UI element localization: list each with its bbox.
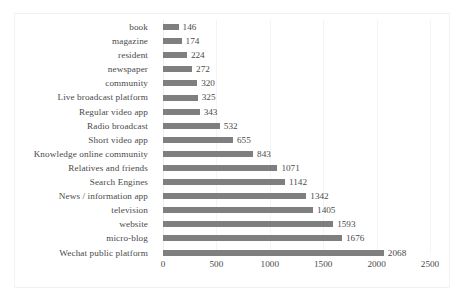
bar-row: Knowledge online community843 bbox=[15, 147, 449, 161]
bar-value-label: 320 bbox=[201, 76, 215, 90]
bar-row: television1405 bbox=[15, 203, 449, 217]
bar-track: 1342 bbox=[163, 189, 430, 203]
x-axis-tick-label: 0 bbox=[161, 257, 166, 271]
bar[interactable] bbox=[163, 250, 384, 256]
bar-row: community320 bbox=[15, 76, 449, 90]
bar[interactable] bbox=[163, 95, 198, 101]
bar-row: magazine174 bbox=[15, 34, 449, 48]
category-label: magazine bbox=[15, 34, 148, 48]
bar-value-label: 843 bbox=[257, 147, 271, 161]
category-label: community bbox=[15, 76, 148, 90]
category-label: Relatives and friends bbox=[15, 161, 148, 175]
bar-value-label: 174 bbox=[186, 34, 200, 48]
bar[interactable] bbox=[163, 207, 313, 213]
bar-track: 325 bbox=[163, 90, 430, 104]
bar-value-label: 325 bbox=[202, 90, 216, 104]
bar[interactable] bbox=[163, 109, 200, 115]
category-label: television bbox=[15, 203, 148, 217]
bar[interactable] bbox=[163, 235, 342, 241]
bar-row: News / information app1342 bbox=[15, 189, 449, 203]
category-label: resident bbox=[15, 48, 148, 62]
bar[interactable] bbox=[163, 38, 182, 44]
category-label: Radio broadcast bbox=[15, 119, 148, 133]
bar-value-label: 655 bbox=[237, 133, 251, 147]
bar-value-label: 1593 bbox=[337, 217, 355, 231]
category-label: book bbox=[15, 20, 148, 34]
bar-value-label: 1071 bbox=[281, 161, 299, 175]
x-axis-tick-label: 500 bbox=[210, 257, 224, 271]
category-label: Wechat public platform bbox=[15, 246, 148, 260]
bar-track: 320 bbox=[163, 76, 430, 90]
bar-row: resident224 bbox=[15, 48, 449, 62]
bar[interactable] bbox=[163, 137, 233, 143]
bar-row: book146 bbox=[15, 20, 449, 34]
bar-track: 532 bbox=[163, 119, 430, 133]
bar[interactable] bbox=[163, 179, 285, 185]
x-axis-tick-label: 2500 bbox=[421, 257, 439, 271]
x-axis-tick-label: 1000 bbox=[261, 257, 279, 271]
bar[interactable] bbox=[163, 221, 333, 227]
bar[interactable] bbox=[163, 52, 187, 58]
bar-track: 1142 bbox=[163, 175, 430, 189]
bar-row: Search Engines1142 bbox=[15, 175, 449, 189]
bar-track: 1071 bbox=[163, 161, 430, 175]
bar-value-label: 1405 bbox=[317, 203, 335, 217]
bar-track: 1676 bbox=[163, 231, 430, 245]
bar-value-label: 1342 bbox=[310, 189, 328, 203]
bar-value-label: 532 bbox=[224, 119, 238, 133]
bar-row: website1593 bbox=[15, 217, 449, 231]
bar-rows: book146magazine174resident224newspaper27… bbox=[15, 20, 449, 253]
bar-track: 146 bbox=[163, 20, 430, 34]
category-label: Live broadcast platform bbox=[15, 90, 148, 104]
bar[interactable] bbox=[163, 165, 277, 171]
bar-row: Live broadcast platform325 bbox=[15, 90, 449, 104]
bar-row: Short video app655 bbox=[15, 133, 449, 147]
bar[interactable] bbox=[163, 66, 192, 72]
x-axis-tick-label: 1500 bbox=[314, 257, 332, 271]
bar-row: micro-blog1676 bbox=[15, 231, 449, 245]
bar-track: 843 bbox=[163, 147, 430, 161]
bar-track: 1405 bbox=[163, 203, 430, 217]
plot-area: book146magazine174resident224newspaper27… bbox=[15, 14, 449, 287]
bar[interactable] bbox=[163, 123, 220, 129]
bar-track: 1593 bbox=[163, 217, 430, 231]
category-label: Regular video app bbox=[15, 105, 148, 119]
bar-row: Regular video app343 bbox=[15, 105, 449, 119]
x-axis: 05001000150020002500 bbox=[163, 257, 430, 271]
category-label: News / information app bbox=[15, 189, 148, 203]
bar[interactable] bbox=[163, 193, 306, 199]
bar-track: 655 bbox=[163, 133, 430, 147]
bar-track: 224 bbox=[163, 48, 430, 62]
category-label: website bbox=[15, 217, 148, 231]
bar[interactable] bbox=[163, 80, 197, 86]
category-label: Short video app bbox=[15, 133, 148, 147]
bar-chart-figure: book146magazine174resident224newspaper27… bbox=[14, 13, 450, 288]
category-label: Knowledge online community bbox=[15, 147, 148, 161]
bar-value-label: 146 bbox=[183, 20, 197, 34]
bar-track: 343 bbox=[163, 105, 430, 119]
bar-row: Radio broadcast532 bbox=[15, 119, 449, 133]
bar-value-label: 272 bbox=[196, 62, 210, 76]
bar-track: 272 bbox=[163, 62, 430, 76]
x-axis-tick-label: 2000 bbox=[367, 257, 385, 271]
category-label: newspaper bbox=[15, 62, 148, 76]
bar-value-label: 224 bbox=[191, 48, 205, 62]
bar[interactable] bbox=[163, 151, 253, 157]
bar-value-label: 1142 bbox=[289, 175, 307, 189]
bar[interactable] bbox=[163, 24, 179, 30]
bar-track: 174 bbox=[163, 34, 430, 48]
bar-row: newspaper272 bbox=[15, 62, 449, 76]
bar-row: Relatives and friends1071 bbox=[15, 161, 449, 175]
bar-value-label: 343 bbox=[204, 105, 218, 119]
bar-value-label: 1676 bbox=[346, 231, 364, 245]
category-label: micro-blog bbox=[15, 231, 148, 245]
category-label: Search Engines bbox=[15, 175, 148, 189]
